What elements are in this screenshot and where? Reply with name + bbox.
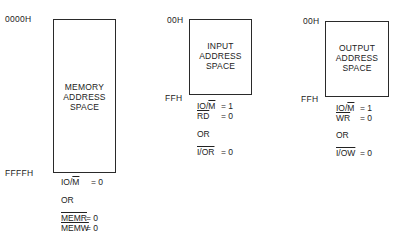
io-m-value: = 0 [91, 177, 103, 187]
memory-title-line-2: ADDRESS [54, 92, 115, 102]
ior-value: = 0 [221, 147, 233, 157]
output-io-m-condition: IO/M= 1 [336, 103, 372, 113]
input-title-line-3: SPACE [190, 61, 251, 71]
input-ior-condition: I/OR= 0 [197, 147, 233, 157]
input-address-space-box: INPUT ADDRESS SPACE [189, 19, 252, 95]
memr-signal: MEMR [61, 213, 86, 223]
output-start-address: 00H [303, 16, 320, 26]
rd-value: = 0 [221, 111, 233, 121]
input-title-line-1: INPUT [190, 41, 251, 51]
m-bar: M [72, 177, 79, 187]
io-m-value: = 1 [221, 101, 233, 111]
wr-signal: WR [336, 113, 360, 123]
input-or-label: OR [197, 129, 210, 139]
output-or-label: OR [336, 130, 349, 140]
memw-signal: MEMW [61, 223, 86, 233]
memory-io-m-condition: IO/M= 0 [61, 177, 103, 187]
output-end-address: FFH [301, 94, 318, 104]
io-m-signal: IO/ [336, 103, 347, 113]
io-m-value: = 1 [360, 103, 372, 113]
memory-title-line-1: MEMORY [54, 82, 115, 92]
input-rd-condition: RD= 0 [197, 111, 233, 121]
memory-address-space-box: MEMORY ADDRESS SPACE [53, 19, 116, 173]
input-box-title: INPUT ADDRESS SPACE [190, 41, 251, 71]
iow-value: = 0 [360, 148, 372, 158]
output-address-space-box: OUTPUT ADDRESS SPACE [325, 21, 389, 97]
m-bar: M [347, 103, 354, 113]
output-title-line-2: ADDRESS [326, 53, 388, 63]
iow-signal: I/OW [336, 148, 360, 158]
output-wr-condition: WR= 0 [336, 113, 372, 123]
memory-box-title: MEMORY ADDRESS SPACE [54, 82, 115, 112]
memory-or-label: OR [61, 195, 74, 205]
memory-start-address: 0000H [5, 14, 32, 24]
m-bar: M [208, 101, 215, 111]
input-start-address: 00H [167, 15, 184, 25]
memory-end-address: FFFFH [5, 168, 33, 178]
output-title-line-3: SPACE [326, 63, 388, 73]
rd-signal: RD [197, 111, 221, 121]
memr-value: = 0 [86, 213, 98, 223]
memory-memw-condition: MEMW= 0 [61, 223, 98, 233]
input-io-m-condition: IO/M= 1 [197, 101, 233, 111]
output-title-line-1: OUTPUT [326, 43, 388, 53]
input-end-address: FFH [165, 93, 182, 103]
input-title-line-2: ADDRESS [190, 51, 251, 61]
output-iow-condition: I/OW= 0 [336, 148, 372, 158]
io-m-signal: IO/ [197, 101, 208, 111]
memw-value: = 0 [86, 223, 98, 233]
memory-title-line-3: SPACE [54, 102, 115, 112]
io-m-signal: IO/ [61, 177, 72, 187]
output-box-title: OUTPUT ADDRESS SPACE [326, 43, 388, 73]
ior-signal: I/OR [197, 147, 221, 157]
wr-value: = 0 [360, 113, 372, 123]
memory-memr-condition: MEMR= 0 [61, 213, 98, 223]
